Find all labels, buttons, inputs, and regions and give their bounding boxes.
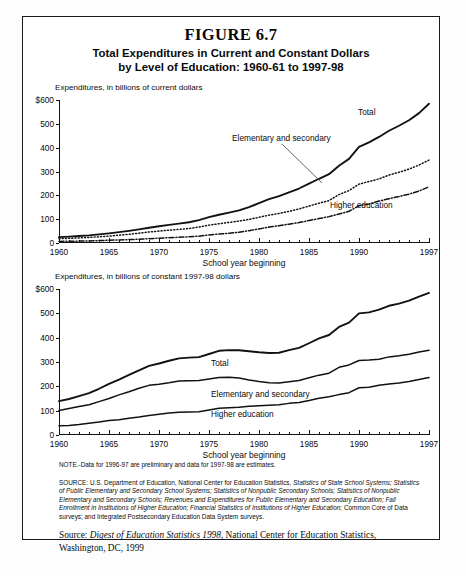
x-tick-label: 1997 bbox=[420, 439, 438, 449]
x-tick-minor bbox=[349, 240, 350, 243]
y-tick-label: 100 bbox=[40, 214, 54, 224]
x-tick-minor bbox=[269, 240, 270, 243]
x-tick-minor bbox=[89, 240, 90, 243]
source-note: SOURCE: U.S. Department of Education, Na… bbox=[59, 479, 423, 521]
x-tick-minor bbox=[129, 432, 130, 435]
x-tick-minor bbox=[89, 432, 90, 435]
x-tick-major bbox=[209, 238, 210, 243]
x-tick-minor bbox=[239, 240, 240, 243]
y-tick-label: 200 bbox=[40, 381, 54, 391]
x-tick-minor bbox=[119, 432, 120, 435]
y-tick-label: 300 bbox=[40, 167, 54, 177]
y-tick bbox=[56, 243, 60, 244]
x-tick-minor bbox=[349, 432, 350, 435]
figure-title-line-2: by Level of Education: 1960-61 to 1997-9… bbox=[118, 61, 343, 73]
x-tick-label: 1960 bbox=[50, 247, 68, 257]
y-tick bbox=[56, 124, 60, 125]
x-tick-minor bbox=[219, 432, 220, 435]
x-tick-minor bbox=[419, 240, 420, 243]
x-tick-minor bbox=[389, 240, 390, 243]
x-tick-minor bbox=[69, 432, 70, 435]
x-tick-minor bbox=[79, 240, 80, 243]
x-tick-minor bbox=[149, 432, 150, 435]
series-line-total bbox=[59, 293, 429, 401]
y-tick bbox=[56, 172, 60, 173]
x-tick-minor bbox=[189, 432, 190, 435]
x-tick-major bbox=[429, 430, 430, 435]
digest-source: Source: Digest of Education Statistics 1… bbox=[59, 529, 419, 554]
y-tick-label: 500 bbox=[40, 119, 54, 129]
x-tick-minor bbox=[99, 432, 100, 435]
x-tick-minor bbox=[399, 432, 400, 435]
y-tick-label: 400 bbox=[40, 143, 54, 153]
x-tick-label: 1980 bbox=[250, 247, 268, 257]
y-tick bbox=[56, 148, 60, 149]
x-tick-minor bbox=[299, 432, 300, 435]
x-tick-minor bbox=[219, 240, 220, 243]
x-tick-major bbox=[109, 238, 110, 243]
y-tick bbox=[56, 362, 60, 363]
series-line-elementary-and-secondary bbox=[59, 350, 429, 410]
y-tick-label: 400 bbox=[40, 333, 54, 343]
x-tick-minor bbox=[139, 240, 140, 243]
chart2-caption: Expenditures, in billions of constant 19… bbox=[55, 272, 240, 281]
x-tick-major bbox=[59, 430, 60, 435]
chart2-label-elementary-secondary: Elementary and secondary bbox=[211, 389, 310, 399]
x-tick-major bbox=[259, 238, 260, 243]
y-tick-label: 200 bbox=[40, 190, 54, 200]
x-tick-minor bbox=[239, 432, 240, 435]
x-tick-minor bbox=[299, 240, 300, 243]
y-tick bbox=[56, 411, 60, 412]
digest-prefix: Source: bbox=[59, 530, 90, 540]
x-tick-minor bbox=[339, 240, 340, 243]
x-tick-minor bbox=[99, 240, 100, 243]
chart1-label-higher-education: Higher education bbox=[330, 200, 393, 210]
x-tick-minor bbox=[369, 240, 370, 243]
x-tick-minor bbox=[149, 240, 150, 243]
x-tick-label: 1970 bbox=[150, 439, 168, 449]
note-text: NOTE.-Data for 1996-97 are preliminary a… bbox=[59, 461, 419, 470]
y-tick-label: 500 bbox=[40, 308, 54, 318]
figure-border-box: FIGURE 6.7 Total Expenditures in Current… bbox=[22, 16, 440, 540]
x-tick-major bbox=[309, 238, 310, 243]
x-tick-minor bbox=[139, 432, 140, 435]
x-tick-minor bbox=[389, 432, 390, 435]
x-tick-label: 1975 bbox=[200, 439, 218, 449]
x-tick-minor bbox=[249, 432, 250, 435]
x-tick-minor bbox=[229, 240, 230, 243]
x-tick-minor bbox=[69, 240, 70, 243]
chart1-x-axis-title: School year beginning bbox=[59, 258, 429, 268]
x-tick-minor bbox=[369, 432, 370, 435]
x-tick-minor bbox=[319, 432, 320, 435]
x-tick-minor bbox=[119, 240, 120, 243]
x-tick-minor bbox=[329, 432, 330, 435]
x-tick-label: 1965 bbox=[100, 247, 118, 257]
y-tick bbox=[56, 289, 60, 290]
x-tick-major bbox=[159, 430, 160, 435]
x-tick-minor bbox=[289, 240, 290, 243]
figure-page: FIGURE 6.7 Total Expenditures in Current… bbox=[0, 0, 466, 576]
x-tick-minor bbox=[189, 240, 190, 243]
source-label: SOURCE: bbox=[59, 479, 88, 486]
chart1-plot-area: School year beginning 0100200300400500$6… bbox=[59, 100, 429, 243]
source-text-intro: U.S. Department of Education, National C… bbox=[90, 479, 291, 486]
x-tick-minor bbox=[339, 432, 340, 435]
x-tick-minor bbox=[179, 240, 180, 243]
x-tick-label: 1960 bbox=[50, 439, 68, 449]
x-tick-label: 1990 bbox=[350, 247, 368, 257]
x-tick-label: 1975 bbox=[200, 247, 218, 257]
x-tick-minor bbox=[199, 240, 200, 243]
y-tick bbox=[56, 100, 60, 101]
x-tick-major bbox=[359, 430, 360, 435]
x-tick-minor bbox=[269, 432, 270, 435]
x-tick-minor bbox=[229, 432, 230, 435]
x-tick-minor bbox=[79, 432, 80, 435]
x-tick-minor bbox=[279, 432, 280, 435]
x-tick-label: 1985 bbox=[300, 247, 318, 257]
y-tick bbox=[56, 219, 60, 220]
y-tick-label: $600 bbox=[36, 284, 54, 294]
chart1-label-elementary-secondary: Elementary and secondary bbox=[232, 133, 331, 143]
x-tick-minor bbox=[289, 432, 290, 435]
x-tick-minor bbox=[419, 432, 420, 435]
x-tick-label: 1980 bbox=[250, 439, 268, 449]
